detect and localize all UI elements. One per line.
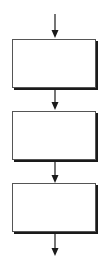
process-box-3 xyxy=(12,183,96,232)
entry-arrow-icon xyxy=(50,14,60,38)
process-box-2-label xyxy=(13,112,95,159)
process-box-1-label xyxy=(13,40,95,87)
process-box-3-label xyxy=(13,184,95,231)
exit-arrow-icon xyxy=(50,234,60,256)
process-box-2 xyxy=(12,111,96,160)
connector-arrow-2-icon xyxy=(50,162,60,183)
connector-arrow-1-icon xyxy=(50,89,60,110)
process-box-1 xyxy=(12,39,96,88)
